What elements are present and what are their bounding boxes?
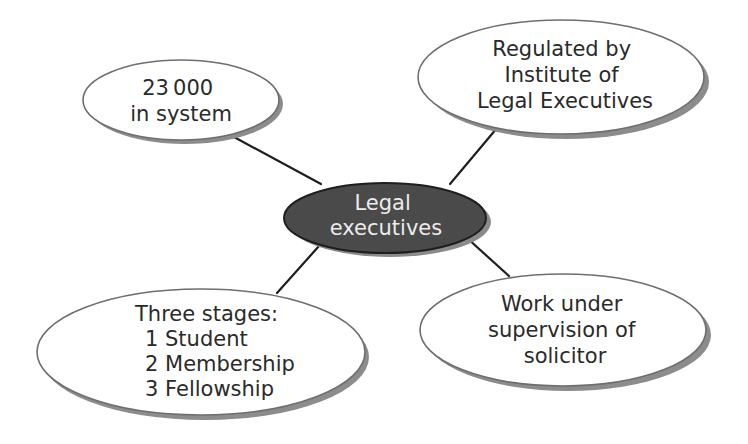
connector-count bbox=[234, 137, 321, 184]
node-regulator-line-2: Institute of bbox=[505, 63, 620, 87]
node-supervision-line-1: Work under bbox=[501, 292, 623, 316]
center-node-line-1: Legal bbox=[355, 191, 411, 215]
center-node: Legal executives bbox=[284, 183, 491, 257]
mind-map-diagram: 23 000 in system Regulated by Institute … bbox=[0, 0, 748, 444]
node-supervision-line-3: solicitor bbox=[524, 344, 607, 368]
node-regulator-line-3: Legal Executives bbox=[477, 89, 653, 113]
node-regulator-line-1: Regulated by bbox=[492, 37, 631, 61]
node-supervision-line-2: supervision of bbox=[488, 318, 636, 342]
connector-regulator bbox=[450, 128, 497, 184]
node-supervision: Work under supervision of solicitor bbox=[420, 274, 711, 391]
connector-supervision bbox=[467, 238, 509, 276]
node-count-line-2: in system bbox=[130, 102, 232, 126]
node-stages-item-1: 1 Student bbox=[145, 327, 248, 351]
node-stages-item-3: 3 Fellowship bbox=[145, 377, 274, 401]
node-count-line-1: 23 000 bbox=[142, 76, 213, 100]
node-regulator: Regulated by Institute of Legal Executiv… bbox=[418, 20, 709, 139]
node-count: 23 000 in system bbox=[83, 60, 283, 144]
node-stages: Three stages: 1 Student 2 Membership 3 F… bbox=[37, 289, 369, 420]
node-stages-item-2: 2 Membership bbox=[145, 352, 295, 376]
connector-stages bbox=[277, 246, 319, 293]
center-node-line-2: executives bbox=[330, 216, 442, 240]
node-stages-heading: Three stages: bbox=[134, 302, 278, 326]
node-count-bubble bbox=[83, 60, 279, 140]
